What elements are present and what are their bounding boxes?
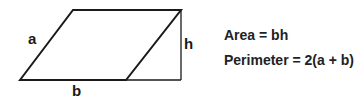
height-h-label: h — [184, 36, 193, 51]
parallelogram-shape — [20, 10, 181, 80]
side-a-label: a — [28, 31, 36, 46]
parallelogram-diagram — [0, 0, 357, 99]
base-b-label: b — [72, 83, 81, 98]
perimeter-formula: Perimeter = 2(a + b) — [224, 53, 354, 67]
area-formula: Area = bh — [224, 28, 288, 42]
